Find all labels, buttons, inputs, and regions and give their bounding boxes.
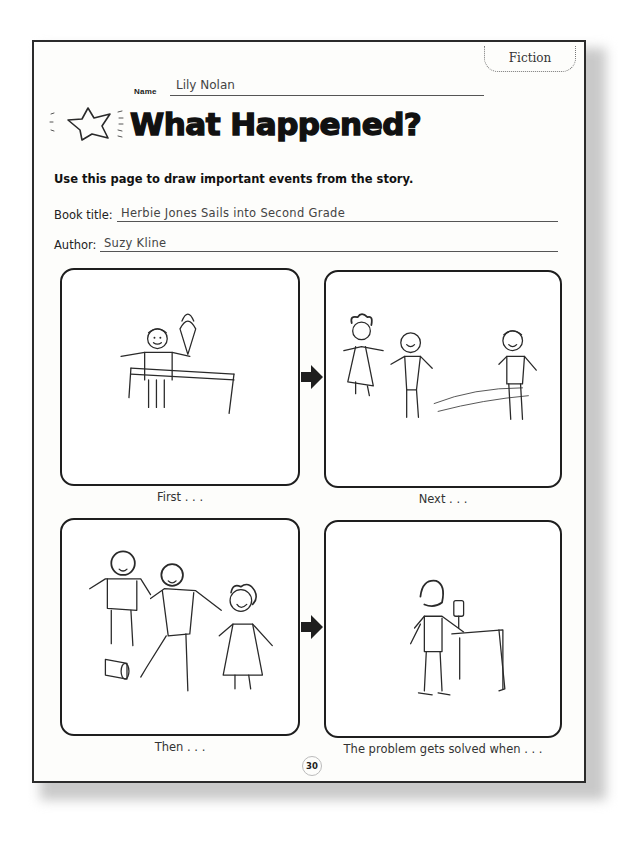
book-title-value: Herbie Jones Sails into Second Grade [121,206,345,220]
author-field: Author: Suzy Kline [54,232,558,254]
caption-then: Then . . . [60,740,300,754]
worksheet-page: Fiction Name Lily Nolan What Happened? U… [32,40,586,783]
story-panel-next[interactable] [324,270,562,488]
page-title: What Happened? [130,106,421,142]
child-with-ice-cream-at-table-icon [62,270,298,484]
name-line[interactable]: Lily Nolan [170,73,484,96]
story-panel-problem-solved[interactable] [324,520,562,738]
instructions: Use this page to draw important events f… [54,172,413,186]
book-title-label: Book title: [54,208,113,222]
story-panel-then[interactable] [60,518,300,736]
author-label: Author: [54,238,96,252]
name-label: Name [134,87,157,96]
arrow-right-icon [299,612,325,642]
name-field: Name Lily Nolan [134,72,484,100]
arrow-right-icon [299,362,325,392]
name-value: Lily Nolan [176,78,235,92]
genre-tag: Fiction [484,46,576,72]
title-row: What Happened? [48,102,548,152]
caption-problem-solved: The problem gets solved when . . . [324,742,562,756]
caption-first: First . . . [60,490,300,504]
author-value: Suzy Kline [104,236,166,250]
star-icon [48,102,128,148]
children-and-fallen-can-icon [62,520,298,734]
book-title-line[interactable]: Herbie Jones Sails into Second Grade [117,203,558,222]
author-line[interactable]: Suzy Kline [100,233,558,252]
three-children-standing-icon [326,272,560,486]
caption-next: Next . . . [324,492,562,506]
child-at-table-with-object-icon [326,522,560,736]
page-number: 30 [302,756,322,776]
book-title-field: Book title: Herbie Jones Sails into Seco… [54,202,558,224]
story-panel-first[interactable] [60,268,300,486]
